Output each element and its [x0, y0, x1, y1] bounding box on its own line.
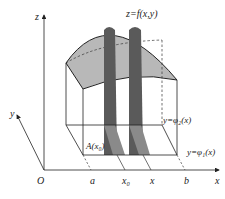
x-axis-label: x	[214, 175, 220, 186]
y-axis-label: y	[9, 108, 15, 119]
projection-lines	[83, 155, 185, 170]
y-axis	[17, 115, 44, 170]
surface-cap	[66, 35, 177, 89]
tick-b: b	[184, 175, 189, 186]
origin-label: O	[37, 175, 44, 186]
tick-a: a	[90, 175, 95, 186]
region-diagram: z=f(x,y) z y O x a x₀ x b y=φ₂(x) y=φ₁(x…	[0, 0, 225, 199]
tick-x0: x₀	[121, 175, 130, 186]
surface-label: z=f(x,y)	[125, 8, 158, 20]
tick-x: x	[149, 175, 155, 186]
cross-section-label: A(x₀)	[85, 141, 105, 151]
upper-boundary-label: y=φ₂(x)	[162, 115, 191, 125]
z-axis-label: z	[34, 11, 39, 22]
lower-boundary-label: y=φ₁(x)	[186, 147, 215, 157]
